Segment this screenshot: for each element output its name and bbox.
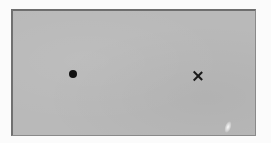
- x-mark-icon: [193, 71, 203, 81]
- light-glare: [223, 120, 233, 133]
- gray-card: [11, 9, 256, 136]
- photo-stage: [0, 0, 271, 143]
- black-dot-mark: [69, 70, 77, 78]
